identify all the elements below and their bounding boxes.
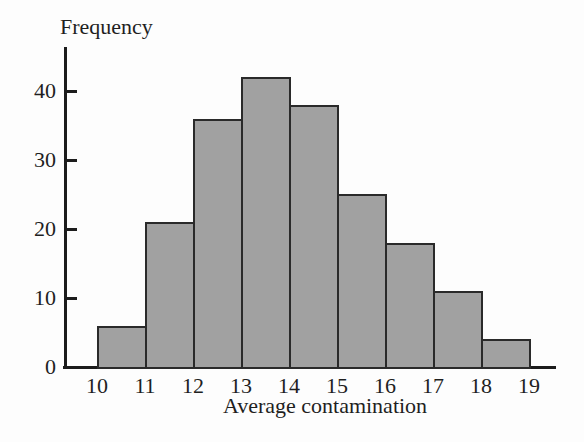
bar-11-12 (145, 222, 195, 369)
bar-10-11 (97, 326, 147, 369)
y-tick-mark-30 (67, 159, 77, 162)
y-tick-mark-10 (67, 297, 77, 300)
y-tick-label-10: 10 (8, 285, 56, 311)
y-tick-mark-40 (67, 90, 77, 93)
y-tick-label-20: 20 (8, 216, 56, 242)
bar-14-15 (289, 105, 339, 369)
bar-17-18 (433, 291, 483, 369)
bar-16-17 (385, 243, 435, 369)
y-tick-label-40: 40 (8, 78, 56, 104)
bar-15-16 (337, 194, 387, 369)
y-axis-line (64, 47, 67, 369)
y-tick-label-30: 30 (8, 147, 56, 173)
bar-12-13 (193, 119, 243, 369)
y-axis-title: Frequency (60, 14, 153, 40)
y-tick-mark-20 (67, 228, 77, 231)
x-axis-title: Average contamination (100, 393, 550, 419)
y-tick-label-0: 0 (8, 354, 56, 380)
histogram-figure: Frequency 010203040 10111213141516171819… (0, 0, 584, 442)
bar-18-19 (481, 339, 531, 369)
bar-13-14 (241, 77, 291, 369)
